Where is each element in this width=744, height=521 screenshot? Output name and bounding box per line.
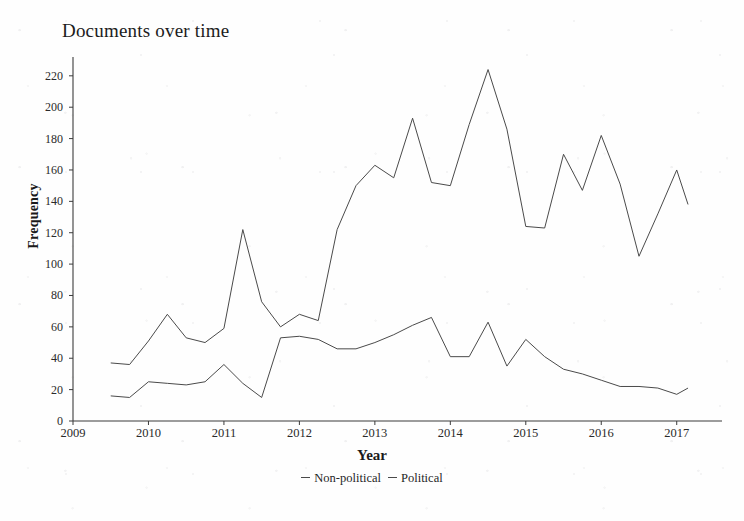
y-tick-marks xyxy=(69,76,73,421)
x-tick-label: 2014 xyxy=(438,426,463,441)
y-tick-label: 160 xyxy=(21,162,63,177)
y-tick-label: 120 xyxy=(21,225,63,240)
y-tick-label: 100 xyxy=(21,257,63,272)
x-tick-label: 2012 xyxy=(287,426,312,441)
y-tick-label: 0 xyxy=(21,414,63,429)
legend-item-political[interactable]: Political xyxy=(388,471,443,486)
y-tick-label: 180 xyxy=(21,131,63,146)
x-tick-label: 2015 xyxy=(513,426,538,441)
x-tick-label: 2017 xyxy=(664,426,689,441)
y-tick-label: 200 xyxy=(21,100,63,115)
y-tick-label: 220 xyxy=(21,68,63,83)
legend-item-non-political[interactable]: Non-political xyxy=(301,471,381,486)
x-tick-label: 2016 xyxy=(589,426,614,441)
legend-dash-icon xyxy=(301,477,310,478)
series-line-non-political xyxy=(111,70,688,365)
legend-dash-icon xyxy=(388,477,397,478)
y-tick-label: 60 xyxy=(21,319,63,334)
data-series-group xyxy=(111,70,688,398)
y-tick-label: 80 xyxy=(21,288,63,303)
y-tick-label: 40 xyxy=(21,351,63,366)
y-tick-label: 20 xyxy=(21,382,63,397)
x-tick-label: 2013 xyxy=(362,426,387,441)
x-tick-marks xyxy=(73,421,677,425)
x-tick-label: 2009 xyxy=(61,426,86,441)
legend-label: Non-political xyxy=(314,471,381,486)
x-axis-title: Year xyxy=(0,447,744,464)
chart-page: Documents over time Frequency 0204060801… xyxy=(0,0,744,521)
chart-legend: Non-politicalPolitical xyxy=(0,471,744,486)
legend-label: Political xyxy=(401,471,443,486)
x-tick-label: 2011 xyxy=(212,426,237,441)
series-line-political xyxy=(111,317,688,397)
y-tick-label: 140 xyxy=(21,194,63,209)
axes xyxy=(73,57,722,421)
plot-area xyxy=(0,0,744,521)
x-tick-label: 2010 xyxy=(136,426,161,441)
